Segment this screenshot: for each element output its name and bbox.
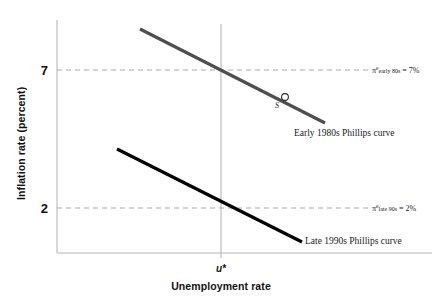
late-1990s-phillips-curve [117,149,302,242]
y-tick-label-2: 2 [41,201,48,216]
early-1980s-phillips-curve [140,29,325,123]
point-s-label: S [275,101,279,110]
pi-early-subscript: early 80s [379,68,401,74]
point-s-marker [282,94,289,101]
pi-late-subscript: late 90s [379,206,398,212]
pi-late-value: = 2% [397,204,417,213]
phillips-curve-figure: S 7 2 Inflation rate (percent) u* Unempl… [0,0,445,299]
pi-early-80s-annotation: πeearly 80s = 7% [372,65,420,75]
x-tick-label-ustar: u* [216,263,227,274]
y-tick-label-7: 7 [41,63,48,78]
chart-canvas: S 7 2 Inflation rate (percent) u* Unempl… [0,0,445,299]
pi-late-90s-annotation: πelate 90s = 2% [372,203,417,213]
early-1980s-curve-label: Early 1980s Phillips curve [294,128,395,138]
y-axis-title: Inflation rate (percent) [15,87,27,200]
x-axis-title: Unemployment rate [171,280,271,292]
late-1990s-curve-label: Late 1990s Phillips curve [305,236,402,246]
pi-early-value: = 7% [400,66,420,75]
